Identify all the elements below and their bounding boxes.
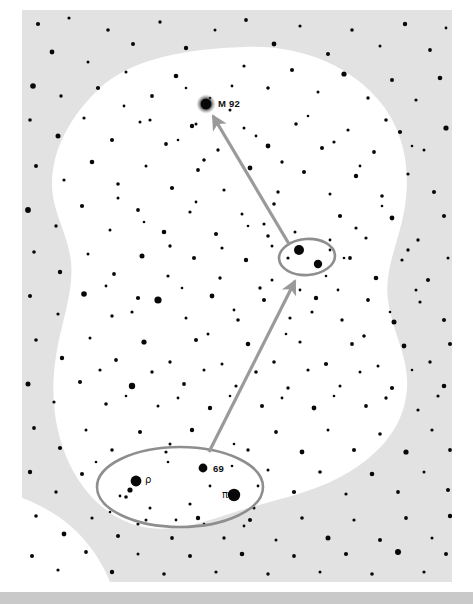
star-dot <box>298 24 301 27</box>
label-m92: M 92 <box>218 98 240 109</box>
star-dot <box>339 385 342 388</box>
star-dot <box>221 363 224 366</box>
star-dot <box>139 121 142 124</box>
star-dot <box>129 383 135 389</box>
star-dot <box>143 221 146 224</box>
label-rho: ρ <box>145 474 151 485</box>
star-dot <box>286 386 289 389</box>
star-dot <box>36 22 40 26</box>
star-dot <box>214 29 217 32</box>
star-dot <box>266 144 271 149</box>
star-dot <box>325 275 328 278</box>
star-dot <box>390 78 394 82</box>
named-star-rho-her <box>131 476 142 487</box>
star-dot <box>80 204 84 208</box>
star-dot <box>423 471 426 474</box>
star-dot <box>140 254 145 259</box>
star-dot <box>188 210 191 213</box>
star-dot <box>314 296 318 300</box>
star-dot <box>418 300 421 303</box>
star-dot <box>442 384 447 389</box>
star-dot <box>216 148 219 151</box>
star-dot <box>370 572 374 576</box>
star-dot <box>406 172 409 175</box>
star-dot <box>370 472 375 477</box>
star-dot <box>285 333 288 336</box>
star-dot <box>30 83 36 89</box>
star-dot <box>105 285 108 288</box>
star-dot <box>292 554 296 558</box>
star-dot <box>137 553 140 556</box>
star-dot <box>195 123 198 126</box>
star-dot <box>98 368 101 371</box>
star-dot <box>67 16 70 19</box>
star-dot <box>125 71 128 74</box>
star-dot <box>170 536 174 540</box>
star-dot <box>438 76 443 81</box>
star-dot <box>260 404 264 408</box>
star-dot <box>54 490 57 493</box>
star-dot <box>109 229 112 232</box>
star-dot <box>162 572 166 576</box>
star-dot <box>54 224 57 227</box>
star-dot <box>32 426 36 430</box>
star-dot <box>116 534 120 538</box>
star-dot <box>300 516 304 520</box>
star-dot <box>423 149 426 152</box>
star-dot <box>406 248 409 251</box>
star-dot <box>247 225 250 228</box>
star-dot <box>326 536 331 541</box>
star-dot <box>60 356 64 360</box>
star-dot <box>248 166 253 171</box>
star-dot <box>350 28 354 32</box>
star-dot <box>326 52 330 56</box>
star-dot <box>381 205 384 208</box>
star-dot <box>62 178 65 181</box>
star-dot <box>327 429 330 432</box>
star-dot <box>208 406 212 410</box>
star-dot <box>430 428 433 431</box>
label-n69: 69 <box>213 463 224 474</box>
star-dot <box>110 448 114 452</box>
star-dot <box>210 294 215 299</box>
star-dot <box>145 519 148 522</box>
star-dot <box>233 309 236 312</box>
star-dot <box>244 18 248 22</box>
star-dot <box>145 165 148 168</box>
star-dot <box>110 570 114 574</box>
star-dot <box>302 170 306 174</box>
star-dot <box>290 68 294 72</box>
star-dot <box>257 485 260 488</box>
star-dot <box>414 98 417 101</box>
star-dot <box>416 238 419 241</box>
star-dot <box>346 128 349 131</box>
star-dot <box>233 443 236 446</box>
star-dot <box>148 118 151 121</box>
star-dot <box>80 472 84 476</box>
star-dot <box>123 105 126 108</box>
star-dot <box>292 490 296 494</box>
named-star-pair-b <box>314 260 322 268</box>
star-dot <box>196 168 200 172</box>
star-dot <box>374 276 379 281</box>
star-dot <box>170 186 174 190</box>
star-dot <box>119 495 122 498</box>
star-dot <box>300 450 305 455</box>
named-star-pair-a <box>294 245 304 255</box>
star-dot <box>448 342 452 346</box>
star-dot <box>445 27 448 30</box>
star-dot <box>242 64 245 67</box>
star-dot <box>26 382 31 387</box>
star-dot <box>150 370 153 373</box>
star-dot <box>220 246 223 249</box>
star-dot <box>415 289 418 292</box>
star-dot <box>372 150 376 154</box>
star-dot <box>175 519 178 522</box>
star-dot <box>286 256 289 259</box>
star-dot <box>154 296 161 303</box>
star-dot <box>162 230 167 235</box>
star-dot <box>402 344 407 349</box>
star-dot <box>168 244 171 247</box>
star-dot <box>34 514 38 518</box>
star-dot <box>359 165 362 168</box>
